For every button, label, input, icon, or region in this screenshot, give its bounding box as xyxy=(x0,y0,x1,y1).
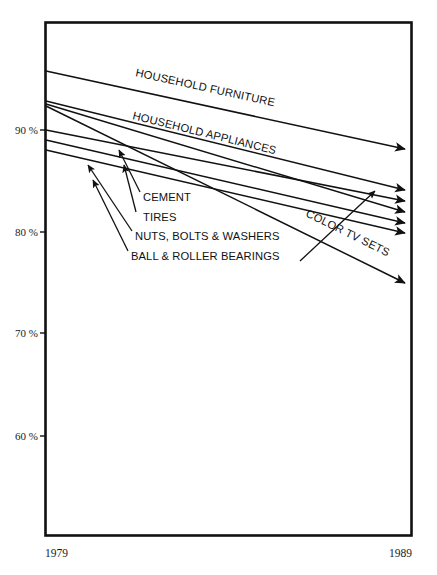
y-tick-label-60: 60 % xyxy=(15,430,38,442)
series-line-ball-roller-bearings xyxy=(46,150,405,233)
y-tick-label-80: 80 % xyxy=(15,226,38,238)
line-chart: 90 % 80 % 70 % 60 % 1979 1989 xyxy=(0,0,437,575)
leader-line-nuts-bolts-washers xyxy=(88,165,132,231)
callout-label-nuts-bolts-washers: NUTS, BOLTS & WASHERS xyxy=(135,230,279,242)
y-tick-label-90: 90 % xyxy=(15,124,38,136)
series-line-nuts-bolts-washers xyxy=(46,140,405,223)
callout-label-cement: CEMENT xyxy=(143,191,191,203)
series-line-household-appliances xyxy=(46,101,405,190)
y-tick-label-70: 70 % xyxy=(15,327,38,339)
x-axis-end-label: 1989 xyxy=(389,547,412,559)
series-label-household-furniture: HOUSEHOLD FURNITURE xyxy=(135,66,277,108)
leader-line-ball-roller-bearings xyxy=(93,180,128,251)
plot-frame xyxy=(46,23,412,536)
x-axis-start-label: 1979 xyxy=(45,547,68,559)
series-label-color-tv-sets: COLOR TV SETS xyxy=(304,207,392,258)
callout-label-tires: TIRES xyxy=(143,211,176,223)
chart-root: 90 % 80 % 70 % 60 % 1979 1989 xyxy=(0,0,437,575)
series-line-cement xyxy=(46,104,405,212)
callout-label-ball-roller-bearings: BALL & ROLLER BEARINGS xyxy=(131,250,280,262)
